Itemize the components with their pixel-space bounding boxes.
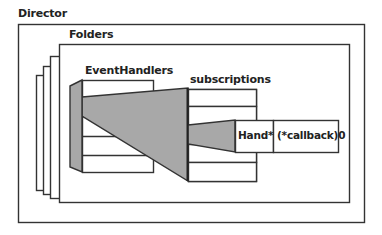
diagram-canvas (0, 0, 382, 235)
callback-text: (*callback)0 (277, 129, 345, 141)
event-handlers-label: EventHandlers (85, 64, 173, 77)
subscriptions-row (189, 90, 257, 107)
director-label: Director (18, 7, 67, 20)
subscriptions-label: subscriptions (190, 73, 271, 86)
director-diagram: Director Folders EventHandlers subscript… (0, 0, 382, 235)
subscriptions-row (189, 163, 257, 182)
hand-text: Hand* (238, 129, 273, 141)
folders-label: Folders (69, 28, 113, 41)
event-handlers-side-face (70, 80, 82, 172)
